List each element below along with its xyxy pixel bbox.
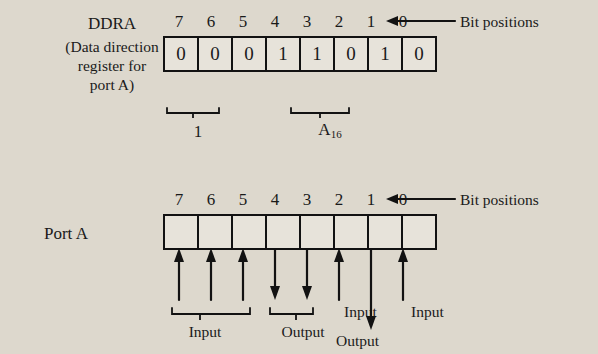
low-nibble-subscript: 16 xyxy=(331,128,342,140)
port-cell-0 xyxy=(165,216,199,248)
ddra-bit-index-1: 6 xyxy=(195,12,227,32)
ddra-bit-index-4: 3 xyxy=(291,12,323,32)
port-byte-boxes xyxy=(163,214,437,250)
port-output-bit1-label: Output xyxy=(336,332,379,350)
ddra-cell-2: 0 xyxy=(233,38,267,70)
port-bit-index-7: 0 xyxy=(387,190,419,210)
port-cell-7 xyxy=(403,216,435,248)
port-cell-5 xyxy=(335,216,369,248)
ddra-cell-4: 1 xyxy=(301,38,335,70)
port-bit-index-0: 7 xyxy=(163,190,195,210)
port-cell-6 xyxy=(369,216,403,248)
port-bit-index-4: 3 xyxy=(291,190,323,210)
ddra-bit-index-row: 76543210 xyxy=(163,12,419,32)
port-bit-index-6: 1 xyxy=(355,190,387,210)
ddra-cell-3: 1 xyxy=(267,38,301,70)
ddra-bit-index-3: 4 xyxy=(259,12,291,32)
port-input-bit2-label: Input xyxy=(344,303,377,321)
ddra-cell-7: 0 xyxy=(403,38,435,70)
port-cell-1 xyxy=(199,216,233,248)
ddra-bit-index-6: 1 xyxy=(355,12,387,32)
ddra-bit-index-5: 2 xyxy=(323,12,355,32)
port-input-bit0-label: Input xyxy=(411,303,444,321)
port-bit-index-5: 2 xyxy=(323,190,355,210)
port-cell-4 xyxy=(301,216,335,248)
ddra-low-nibble-label: A16 xyxy=(300,120,360,140)
port-bit-index-row: 76543210 xyxy=(163,190,419,210)
ddra-bit-index-7: 0 xyxy=(387,12,419,32)
ddra-high-nibble-label: 1 xyxy=(178,122,218,142)
port-bit-positions-label: Bit positions xyxy=(460,191,539,209)
ddra-bit-index-0: 7 xyxy=(163,12,195,32)
ddra-bit-index-2: 5 xyxy=(227,12,259,32)
ddra-cell-0: 0 xyxy=(165,38,199,70)
port-input-group-label: Input xyxy=(170,323,240,341)
ddra-byte-boxes: 00011010 xyxy=(163,36,437,72)
port-a-title: Port A xyxy=(44,224,88,244)
ddra-title: DDRA xyxy=(52,14,172,34)
port-output-group-label: Output xyxy=(268,323,338,341)
low-nibble-text: A xyxy=(318,120,330,139)
port-cell-2 xyxy=(233,216,267,248)
ddra-cell-1: 0 xyxy=(199,38,233,70)
ddra-caption-line3: port A) xyxy=(32,76,192,94)
port-bit-index-3: 4 xyxy=(259,190,291,210)
port-cell-3 xyxy=(267,216,301,248)
ddra-bit-positions-label: Bit positions xyxy=(460,13,539,31)
port-bit-index-1: 6 xyxy=(195,190,227,210)
ddra-cell-5: 0 xyxy=(335,38,369,70)
port-bit-index-2: 5 xyxy=(227,190,259,210)
ddra-cell-6: 1 xyxy=(369,38,403,70)
diagram-canvas: DDRA (Data direction register for port A… xyxy=(0,0,598,354)
